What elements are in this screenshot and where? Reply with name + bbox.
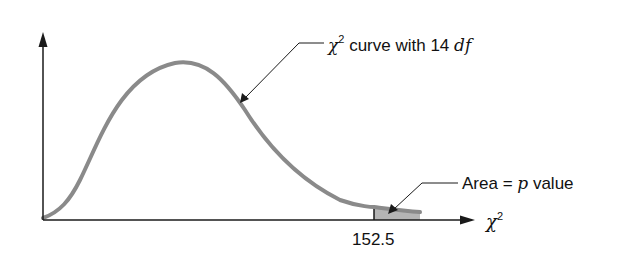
chi-symbol: χ bbox=[486, 211, 497, 232]
x-axis-label: χ2 bbox=[486, 210, 503, 233]
df-label: df bbox=[454, 35, 471, 55]
area-annotation: Area = p value bbox=[462, 173, 574, 194]
p-label: p bbox=[517, 173, 528, 193]
x-axis-arrow-icon bbox=[460, 216, 475, 225]
value-label: value bbox=[528, 174, 573, 193]
equals-sign: = bbox=[498, 174, 517, 193]
curve-annotation-text: curve with 14 bbox=[344, 36, 454, 55]
chi-symbol: χ bbox=[328, 35, 338, 55]
chi-square-chart bbox=[0, 0, 635, 266]
area-pointer bbox=[394, 183, 458, 209]
curve-pointer-arrow-icon bbox=[240, 93, 249, 103]
curve-annotation: χ2 curve with 14 df bbox=[328, 33, 471, 56]
area-label: Area bbox=[462, 174, 498, 193]
chi-square-curve bbox=[43, 62, 420, 218]
superscript: 2 bbox=[497, 210, 503, 222]
curve-pointer bbox=[245, 43, 324, 98]
y-axis-arrow-icon bbox=[39, 32, 48, 47]
tick-label-152-5: 152.5 bbox=[352, 230, 395, 250]
